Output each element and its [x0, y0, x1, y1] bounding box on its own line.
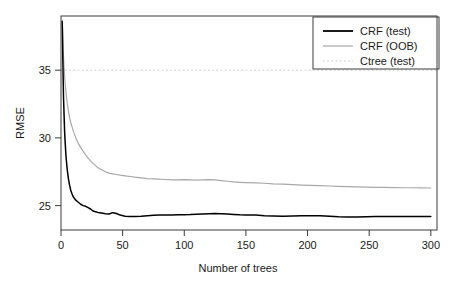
y-tick-label: 25 [39, 200, 51, 212]
legend-label: CRF (test) [360, 25, 411, 37]
x-tick-label: 200 [298, 239, 316, 251]
x-tick-label: 0 [58, 239, 64, 251]
x-tick-label: 150 [237, 239, 255, 251]
x-tick-label: 250 [360, 239, 378, 251]
x-tick-label: 300 [422, 239, 440, 251]
x-tick-label: 100 [175, 239, 193, 251]
y-tick-label: 30 [39, 132, 51, 144]
y-tick-label: 35 [39, 64, 51, 76]
legend-label: Ctree (test) [360, 55, 415, 67]
y-axis-title: RMSE [14, 107, 26, 139]
legend-entries: CRF (test)CRF (OOB)Ctree (test) [323, 25, 417, 67]
rmse-vs-trees-line-chart: 253035 050100150200250300 Number of tree… [0, 0, 454, 286]
chart-figure: 253035 050100150200250300 Number of tree… [0, 0, 454, 286]
x-axis-title: Number of trees [199, 262, 278, 274]
x-tick-label: 50 [117, 239, 129, 251]
legend-label: CRF (OOB) [360, 40, 417, 52]
